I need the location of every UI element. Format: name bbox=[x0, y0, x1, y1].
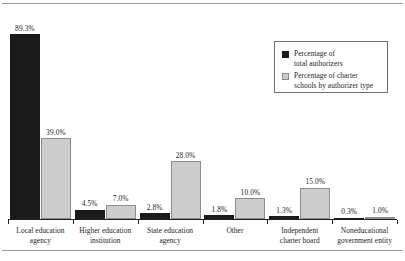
bar bbox=[10, 34, 40, 219]
bar-column: 2.8% bbox=[140, 12, 170, 219]
bar-column: 10.0% bbox=[235, 12, 265, 219]
legend-label: Percentage of total authorizers bbox=[294, 49, 343, 68]
x-axis-category-label: Other bbox=[203, 226, 268, 236]
bar-column: 39.0% bbox=[41, 12, 71, 219]
bar bbox=[41, 138, 71, 219]
bar bbox=[75, 210, 105, 219]
chart-figure: 89.3%39.0%4.5%7.0%2.8%28.0%1.8%10.0%1.3%… bbox=[0, 0, 405, 261]
bar-value-label: 2.8% bbox=[147, 203, 163, 212]
x-axis-category-label: Noneducationalgovernment entity bbox=[332, 226, 397, 245]
bar-value-label: 39.0% bbox=[46, 128, 66, 137]
bar-value-label: 1.0% bbox=[372, 206, 388, 215]
x-axis-tick bbox=[203, 220, 204, 224]
bar-column: 7.0% bbox=[106, 12, 136, 219]
x-axis-tick bbox=[332, 220, 333, 224]
x-axis-tick bbox=[267, 220, 268, 224]
bar bbox=[171, 161, 201, 219]
legend-label: Percentage of charter schools by authori… bbox=[294, 71, 373, 90]
bar-pair: 4.5%7.0% bbox=[73, 12, 138, 219]
x-axis-tick bbox=[397, 220, 398, 224]
top-divider bbox=[2, 3, 403, 4]
bar-value-label: 7.0% bbox=[113, 194, 129, 203]
bar-group: 89.3%39.0% bbox=[8, 12, 73, 219]
x-axis-category-label: Independentcharter board bbox=[267, 226, 332, 245]
x-axis-tick bbox=[8, 220, 9, 224]
bar-value-label: 28.0% bbox=[176, 151, 196, 160]
bar-column: 4.5% bbox=[75, 12, 105, 219]
legend-swatch-icon bbox=[282, 73, 289, 80]
bar bbox=[106, 205, 136, 219]
legend-entry-charter-schools: Percentage of charter schools by authori… bbox=[282, 71, 373, 90]
bar-value-label: 1.8% bbox=[212, 205, 228, 214]
bar bbox=[235, 198, 265, 219]
bar-value-label: 10.0% bbox=[241, 188, 261, 197]
bar-column: 28.0% bbox=[171, 12, 201, 219]
bar-value-label: 15.0% bbox=[305, 177, 325, 186]
x-axis-category-label: Local educationagency bbox=[8, 226, 73, 245]
x-axis-category-label: Higher educationinstitution bbox=[73, 226, 138, 245]
bar bbox=[300, 188, 330, 219]
bar-column: 1.8% bbox=[204, 12, 234, 219]
chart-legend: Percentage of total authorizers Percenta… bbox=[274, 41, 388, 93]
legend-swatch-icon bbox=[282, 51, 289, 58]
bar-pair: 2.8%28.0% bbox=[138, 12, 203, 219]
bar-value-label: 89.3% bbox=[15, 24, 35, 33]
x-axis-tick bbox=[73, 220, 74, 224]
bar-group: 2.8%28.0% bbox=[138, 12, 203, 219]
bar-pair: 89.3%39.0% bbox=[8, 12, 73, 219]
bar-value-label: 4.5% bbox=[82, 199, 98, 208]
x-axis-tick bbox=[138, 220, 139, 224]
bar-value-label: 0.3% bbox=[341, 207, 357, 216]
bar-value-label: 1.3% bbox=[276, 206, 292, 215]
bottom-divider bbox=[2, 250, 403, 251]
bar-group: 4.5%7.0% bbox=[73, 12, 138, 219]
x-axis-category-label: State educationagency bbox=[138, 226, 203, 245]
bar-column: 89.3% bbox=[10, 12, 40, 219]
legend-entry-total-authorizers: Percentage of total authorizers bbox=[282, 49, 343, 68]
bar-group: 1.8%10.0% bbox=[203, 12, 268, 219]
bar-pair: 1.8%10.0% bbox=[203, 12, 268, 219]
